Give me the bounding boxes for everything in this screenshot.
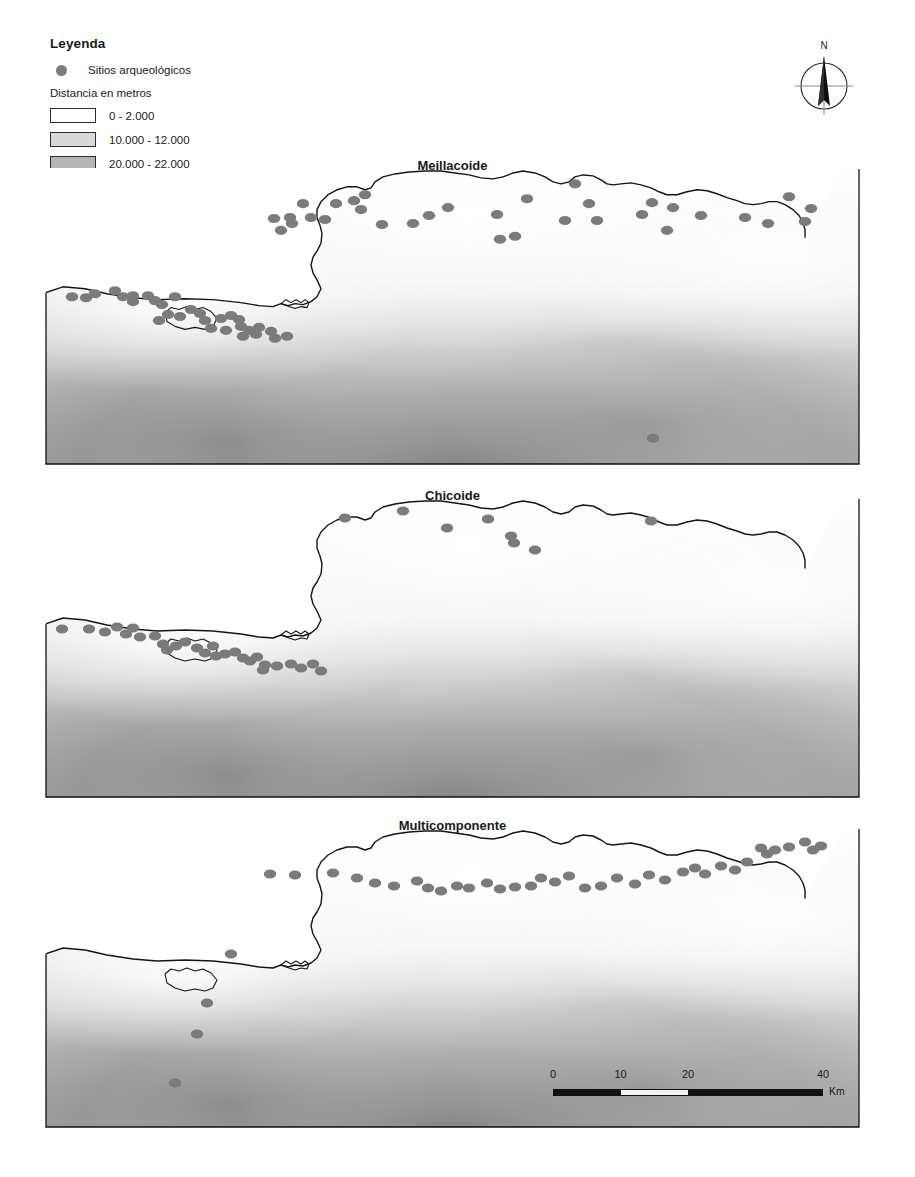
site-point[interactable] xyxy=(169,1078,181,1087)
site-point[interactable] xyxy=(369,878,381,887)
site-point[interactable] xyxy=(799,217,811,226)
site-point[interactable] xyxy=(56,624,68,633)
site-point[interactable] xyxy=(315,666,327,675)
site-point[interactable] xyxy=(199,316,211,325)
site-point[interactable] xyxy=(225,949,237,958)
site-point[interactable] xyxy=(715,861,727,870)
site-point[interactable] xyxy=(250,330,262,339)
site-point[interactable] xyxy=(251,652,263,661)
site-point[interactable] xyxy=(339,513,351,522)
site-point[interactable] xyxy=(659,875,671,884)
site-point[interactable] xyxy=(179,637,191,646)
site-point[interactable] xyxy=(174,312,186,321)
site-point[interactable] xyxy=(207,641,219,650)
site-point[interactable] xyxy=(636,210,648,219)
site-point[interactable] xyxy=(629,879,641,888)
site-point[interactable] xyxy=(271,661,283,670)
site-point[interactable] xyxy=(307,659,319,668)
site-point[interactable] xyxy=(559,216,571,225)
site-point[interactable] xyxy=(327,868,339,877)
site-point[interactable] xyxy=(388,881,400,890)
site-point[interactable] xyxy=(359,190,371,199)
site-point[interactable] xyxy=(257,665,269,674)
site-point[interactable] xyxy=(289,870,301,879)
site-point[interactable] xyxy=(264,869,276,878)
site-point[interactable] xyxy=(407,219,419,228)
site-point[interactable] xyxy=(549,877,561,886)
site-point[interactable] xyxy=(83,624,95,633)
site-point[interactable] xyxy=(491,210,503,219)
site-point[interactable] xyxy=(111,622,123,631)
site-point[interactable] xyxy=(667,203,679,212)
site-point[interactable] xyxy=(330,199,342,208)
site-point[interactable] xyxy=(815,841,827,850)
site-point[interactable] xyxy=(583,199,595,208)
site-point[interactable] xyxy=(509,882,521,891)
site-point[interactable] xyxy=(355,205,367,214)
map-panel-meillacoide[interactable]: Meillacoide xyxy=(45,168,860,465)
site-point[interactable] xyxy=(319,215,331,224)
site-point[interactable] xyxy=(591,216,603,225)
site-point[interactable] xyxy=(220,326,232,335)
site-point[interactable] xyxy=(695,211,707,220)
site-point[interactable] xyxy=(805,204,817,213)
site-point[interactable] xyxy=(351,873,363,882)
site-point[interactable] xyxy=(127,623,139,632)
site-point[interactable] xyxy=(646,198,658,207)
site-point[interactable] xyxy=(441,523,453,532)
site-point[interactable] xyxy=(563,871,575,880)
site-point[interactable] xyxy=(494,884,506,893)
site-point[interactable] xyxy=(569,179,581,188)
site-point[interactable] xyxy=(645,516,657,525)
site-point[interactable] xyxy=(595,881,607,890)
site-point[interactable] xyxy=(643,870,655,879)
site-point[interactable] xyxy=(451,881,463,890)
site-point[interactable] xyxy=(482,514,494,523)
site-point[interactable] xyxy=(481,878,493,887)
site-point[interactable] xyxy=(205,324,217,333)
site-point[interactable] xyxy=(521,194,533,203)
site-point[interactable] xyxy=(297,199,309,208)
site-point[interactable] xyxy=(525,881,537,890)
site-point[interactable] xyxy=(677,867,689,876)
site-point[interactable] xyxy=(348,196,360,205)
site-point[interactable] xyxy=(153,316,165,325)
site-point[interactable] xyxy=(422,883,434,892)
site-point[interactable] xyxy=(741,857,753,866)
site-point[interactable] xyxy=(739,213,751,222)
site-point[interactable] xyxy=(284,213,296,222)
site-point[interactable] xyxy=(799,837,811,846)
site-point[interactable] xyxy=(89,289,101,298)
site-point[interactable] xyxy=(149,631,161,640)
site-point[interactable] xyxy=(169,292,181,301)
site-point[interactable] xyxy=(535,873,547,882)
site-point[interactable] xyxy=(295,663,307,672)
site-point[interactable] xyxy=(281,332,293,341)
site-point[interactable] xyxy=(99,627,111,636)
site-point[interactable] xyxy=(134,632,146,641)
site-point[interactable] xyxy=(611,873,623,882)
site-point[interactable] xyxy=(66,292,78,301)
site-point[interactable] xyxy=(275,226,287,235)
site-point[interactable] xyxy=(579,883,591,892)
site-point[interactable] xyxy=(423,211,435,220)
site-point[interactable] xyxy=(647,434,659,443)
site-point[interactable] xyxy=(305,213,317,222)
site-point[interactable] xyxy=(199,648,211,657)
site-point[interactable] xyxy=(376,220,388,229)
site-point[interactable] xyxy=(529,545,541,554)
site-point[interactable] xyxy=(463,883,475,892)
site-point[interactable] xyxy=(201,998,213,1007)
site-point[interactable] xyxy=(689,863,701,872)
site-point[interactable] xyxy=(699,869,711,878)
site-point[interactable] xyxy=(494,235,506,244)
site-point[interactable] xyxy=(237,332,249,341)
site-point[interactable] xyxy=(268,214,280,223)
site-point[interactable] xyxy=(762,219,774,228)
site-point[interactable] xyxy=(156,300,168,309)
site-point[interactable] xyxy=(729,865,741,874)
site-point[interactable] xyxy=(127,297,139,306)
site-point[interactable] xyxy=(509,232,521,241)
site-point[interactable] xyxy=(769,845,781,854)
site-point[interactable] xyxy=(442,203,454,212)
